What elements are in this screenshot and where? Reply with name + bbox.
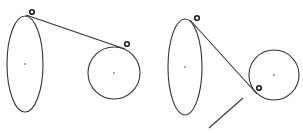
right-extra-line[interactable] xyxy=(209,98,243,128)
right-figure xyxy=(168,16,299,128)
left-ellipse-center-point xyxy=(24,63,26,65)
right-ellipse-center-point xyxy=(184,66,186,68)
left-tangent-end-marker[interactable] xyxy=(125,42,130,47)
left-circle-center-point xyxy=(113,72,115,74)
right-circle-center-point xyxy=(273,74,275,76)
right-tangent-end-marker[interactable] xyxy=(257,86,262,91)
left-figure xyxy=(7,10,140,112)
right-tangent-start-marker[interactable] xyxy=(195,16,200,21)
drawing-canvas xyxy=(0,0,303,133)
right-tangent-line[interactable] xyxy=(190,20,257,94)
left-tangent-start-marker[interactable] xyxy=(30,10,35,15)
